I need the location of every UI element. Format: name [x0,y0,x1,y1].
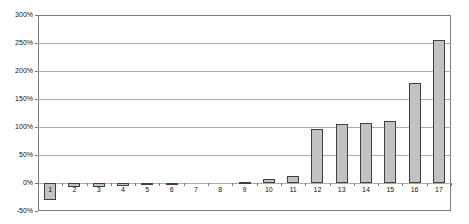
x-axis-tick [402,183,403,186]
x-tick-label: 14 [356,186,376,194]
x-tick-label: 7 [186,186,206,194]
x-tick-label: 13 [332,186,352,194]
bar [360,123,372,183]
y-tick-label: 300% [0,11,33,19]
x-axis-tick [427,183,428,186]
x-axis-tick [62,183,63,186]
x-tick-label: 4 [113,186,133,194]
x-tick-label: 6 [162,186,182,194]
y-axis-tick [35,155,38,156]
x-tick-label: 9 [235,186,255,194]
x-axis-tick [111,183,112,186]
bar [141,183,153,185]
x-axis-tick [281,183,282,186]
y-axis-tick [35,15,38,16]
y-tick-label: 200% [0,67,33,75]
x-tick-label: 16 [405,186,425,194]
y-tick-label: 50% [0,151,33,159]
x-axis-tick [354,183,355,186]
x-tick-label: 1 [40,186,60,194]
x-tick-label: 12 [307,186,327,194]
x-tick-label: 2 [64,186,84,194]
x-tick-label: 11 [283,186,303,194]
x-axis-tick [378,183,379,186]
bar [433,40,445,183]
x-axis-tick [159,183,160,186]
x-tick-label: 3 [89,186,109,194]
bar [336,124,348,183]
x-tick-label: 8 [210,186,230,194]
y-axis-tick [35,211,38,212]
gridline [38,99,451,100]
gridline [38,71,451,72]
bar [409,83,421,183]
x-axis-tick [38,183,39,186]
y-axis-tick [35,99,38,100]
bar [311,129,323,183]
y-axis-tick [35,43,38,44]
bar [166,183,178,185]
x-tick-label: 17 [429,186,449,194]
bar-chart-figure: 300%250%200%150%100%50%0%-50%12345678910… [0,0,469,224]
x-axis-tick [305,183,306,186]
y-axis-tick [35,71,38,72]
x-axis-tick [232,183,233,186]
y-tick-label: 150% [0,95,33,103]
gridline [38,43,451,44]
x-axis-tick [184,183,185,186]
x-axis-tick [135,183,136,186]
y-tick-label: -50% [0,207,33,215]
x-tick-label: 5 [137,186,157,194]
y-axis-tick [35,127,38,128]
x-tick-label: 15 [380,186,400,194]
bar [263,179,275,184]
y-tick-label: 0% [0,179,33,187]
bar [239,182,251,184]
y-tick-label: 250% [0,39,33,47]
x-axis-tick [451,183,452,186]
x-tick-label: 10 [259,186,279,194]
y-tick-label: 100% [0,123,33,131]
x-axis-tick [208,183,209,186]
bar [384,121,396,183]
bar [287,176,299,183]
